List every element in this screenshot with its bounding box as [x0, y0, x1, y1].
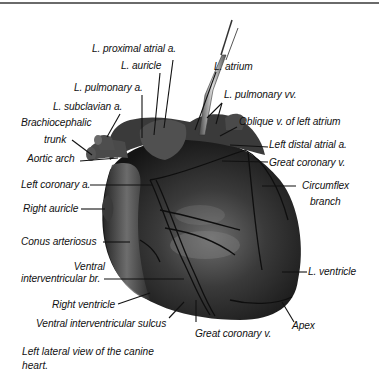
- label-great-coronary-v-bottom: Great coronary v.: [195, 328, 271, 340]
- label-ventral-interventricular-sulcus: Ventral interventricular sulcus: [36, 318, 166, 330]
- label-l-ventricle: L. ventricle: [308, 266, 356, 278]
- label-left-distal-atrial-a: Left distal atrial a.: [269, 139, 347, 151]
- label-l-subclavian-a: L. subclavian a.: [53, 101, 122, 113]
- label-aortic-arch: Aortic arch: [27, 153, 75, 165]
- label-l-auricle: L. auricle: [121, 60, 161, 72]
- label-brachiocephalic: Brachiocephalic: [21, 117, 91, 129]
- label-right-auricle: Right auricle: [23, 203, 78, 215]
- label-apex: Apex: [292, 320, 315, 332]
- label-brachiocephalic-trunk: trunk: [44, 134, 66, 146]
- label-great-coronary-v-top: Great coronary v.: [269, 157, 345, 169]
- label-oblique-v-left-atrium: Oblique v. of left atrium: [239, 116, 341, 128]
- label-right-ventricle: Right ventricle: [52, 299, 115, 311]
- label-interventricular-br: interventricular br.: [21, 273, 100, 285]
- label-l-pulmonary-vv: L. pulmonary vv.: [224, 89, 296, 101]
- label-l-proximal-atrial-a: L. proximal atrial a.: [92, 43, 176, 55]
- label-l-pulmonary-a: L. pulmonary a.: [74, 82, 143, 94]
- label-ventral: Ventral: [21, 261, 105, 273]
- label-circumflex: Circumflex: [302, 180, 349, 192]
- figure-caption: Left lateral view of the canine heart.: [22, 345, 182, 373]
- label-left-coronary-a: Left coronary a.: [21, 179, 90, 191]
- label-conus-arteriosus: Conus arteriosus: [21, 236, 96, 248]
- label-l-atrium: L. atrium: [214, 61, 253, 73]
- heart-diagram: L. proximal atrial a. L. auricle L. atri…: [0, 0, 379, 379]
- label-circumflex-branch: branch: [310, 196, 341, 208]
